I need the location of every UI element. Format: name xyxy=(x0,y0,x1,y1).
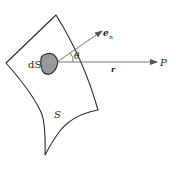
normal-vector-subscript: n xyxy=(109,33,113,40)
area-element-patch xyxy=(41,53,58,74)
area-element-label: dS xyxy=(28,59,41,70)
point-label: P xyxy=(159,57,167,68)
surface-integral-diagram: dS S e n θ r P xyxy=(0,0,176,169)
position-vector-label: r xyxy=(111,64,116,74)
angle-arc xyxy=(70,53,73,62)
surface-label: S xyxy=(54,109,61,120)
angle-label: θ xyxy=(74,51,80,61)
normal-vector-arrow xyxy=(57,31,102,62)
surface-outline xyxy=(6,15,98,155)
